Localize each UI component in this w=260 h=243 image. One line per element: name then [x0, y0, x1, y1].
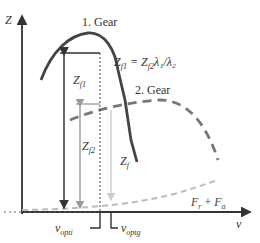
resistance-label: Fr + Fa — [191, 196, 226, 211]
y-axis-label: Z — [5, 14, 12, 26]
traction-diagram: Z v 1. Gear 2. Gear Zf1 = Zf2λ₁/λ₂ Zf1 Z… — [0, 0, 260, 243]
resistance-curve — [22, 180, 218, 210]
voptg-label: voptg — [121, 222, 141, 237]
zf-label: Zf — [120, 155, 129, 170]
vopti-leader — [90, 212, 100, 228]
gear-ratio-equation: Zf1 = Zf2λ₁/λ₂ — [114, 56, 176, 71]
gear1-label: 1. Gear — [82, 16, 117, 28]
x-axis-label: v — [236, 218, 241, 230]
gear2-label: 2. Gear — [135, 84, 170, 96]
zf1-label: Zf1 — [73, 74, 86, 89]
zf2-label: Zf2 — [82, 140, 95, 155]
voptg-leader — [111, 212, 118, 228]
vopti-label: vopti — [55, 222, 73, 237]
